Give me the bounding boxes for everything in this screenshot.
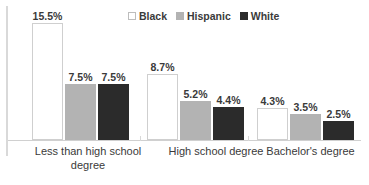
bar-rect-2-1[interactable]	[290, 114, 321, 140]
bar-1-0[interactable]: 8.7%	[147, 74, 178, 140]
category-label-2-line1: Bachelor's degree	[253, 145, 368, 159]
category-label-0-line2: degree	[8, 159, 168, 173]
bar-0-1[interactable]: 7.5%	[65, 84, 96, 140]
bar-value-label-0-2: 7.5%	[102, 72, 126, 83]
bar-rect-2-0[interactable]	[257, 108, 288, 140]
bar-0-2[interactable]: 7.5%	[98, 84, 129, 140]
bar-group-1: 8.7%5.2%4.4%	[147, 12, 244, 140]
category-label-0: Less than high school degree	[8, 145, 168, 172]
bar-1-1[interactable]: 5.2%	[180, 101, 211, 140]
bar-value-label-2-2: 2.5%	[327, 109, 351, 120]
bar-1-2[interactable]: 4.4%	[213, 107, 244, 140]
category-label-2: Bachelor's degree	[253, 145, 368, 159]
bar-rect-1-1[interactable]	[180, 101, 211, 140]
bar-rect-0-2[interactable]	[98, 84, 129, 140]
bar-value-label-2-0: 4.3%	[261, 96, 285, 107]
bar-rect-2-2[interactable]	[323, 121, 354, 140]
bar-value-label-2-1: 3.5%	[294, 102, 318, 113]
bar-value-label-1-2: 4.4%	[217, 95, 241, 106]
bar-rect-0-0[interactable]	[32, 23, 63, 140]
category-tick-2	[248, 136, 249, 141]
bar-value-label-0-0: 15.5%	[33, 11, 63, 22]
category-axis-labels: Less than high school degree High school…	[8, 145, 361, 183]
bar-rect-1-2[interactable]	[213, 107, 244, 140]
bar-0-0[interactable]: 15.5%	[32, 23, 63, 140]
bar-group-0: 15.5%7.5%7.5%	[32, 12, 129, 140]
bar-value-label-1-1: 5.2%	[184, 89, 208, 100]
bar-2-0[interactable]: 4.3%	[257, 108, 288, 140]
bar-value-label-0-1: 7.5%	[69, 72, 93, 83]
bar-rect-1-0[interactable]	[147, 74, 178, 140]
bar-value-label-1-0: 8.7%	[151, 62, 175, 73]
category-axis-line	[8, 140, 361, 141]
bar-2-1[interactable]: 3.5%	[290, 114, 321, 140]
bar-group-2: 4.3%3.5%2.5%	[257, 12, 354, 140]
category-label-0-line1: Less than high school	[8, 145, 168, 159]
bar-chart: Black Hispanic White 15.5%7.5%7.5%8.7%5.…	[0, 0, 369, 185]
bar-rect-0-1[interactable]	[65, 84, 96, 140]
bar-2-2[interactable]: 2.5%	[323, 121, 354, 140]
plot-area: 15.5%7.5%7.5%8.7%5.2%4.4%4.3%3.5%2.5%	[8, 12, 361, 140]
category-tick-1	[140, 136, 141, 141]
